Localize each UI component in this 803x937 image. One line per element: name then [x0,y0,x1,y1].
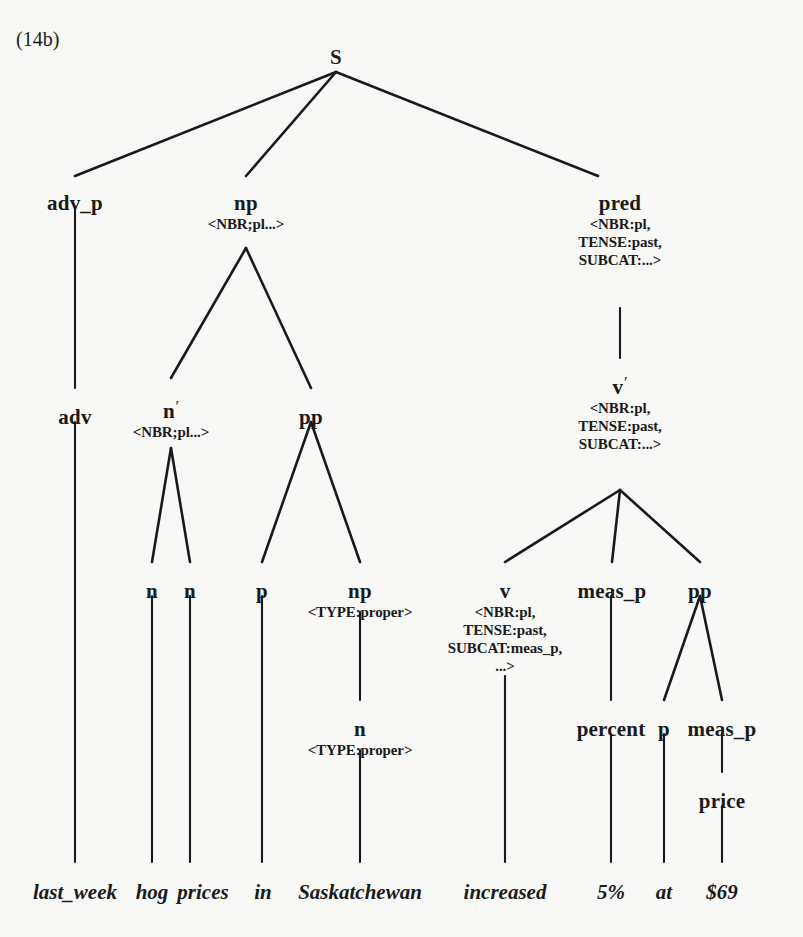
tree-node-adv: adv [58,406,91,429]
tree-edge [505,490,620,562]
node-label: adv_p [47,192,103,215]
node-label: pp [688,580,712,603]
tree-node-s: S [330,46,342,69]
feature-line: TENSE:past, [578,417,662,435]
tree-edge [152,448,171,562]
tree-node-n2: n [184,580,196,603]
node-label: v [448,580,562,603]
feature-line: <NBR;pl...> [208,215,284,233]
node-label: pred [578,192,662,215]
feature-line: TENSE:past, [578,233,662,251]
tree-node-np2: np<TYPE:proper> [308,580,413,621]
node-label: meas_p [578,580,647,603]
node-label: price [699,790,745,813]
tree-node-n3: n<TYPE:proper> [308,718,413,759]
terminal-word-fivepct: 5% [597,880,625,905]
tree-node-pp1: pp [299,406,323,429]
feature-line: <TYPE:proper> [308,603,413,621]
tree-edge [246,72,336,176]
node-feature-structure: <NBR;pl...> [133,423,209,441]
node-feature-structure: <NBR:pl,TENSE:past,SUBCAT:...> [578,399,662,453]
node-label: n [308,718,413,741]
feature-line: SUBCAT:...> [578,251,662,269]
node-label: n [146,580,158,603]
tree-node-p1: p [256,580,268,603]
terminal-word-in: in [254,880,272,905]
node-feature-structure: <NBR:pl,TENSE:past,SUBCAT:...> [578,215,662,269]
terminal-word-hog: hog [136,880,169,905]
tree-node-meas_p1: meas_p [578,580,647,603]
node-label: n [184,580,196,603]
terminal-word-at: at [656,880,672,905]
tree-node-pred: pred<NBR:pl,TENSE:past,SUBCAT:...> [578,192,662,269]
tree-node-n1: n [146,580,158,603]
node-feature-structure: <NBR:pl,TENSE:past,SUBCAT:meas_p,...> [448,603,562,675]
feature-line: SUBCAT:meas_p, [448,639,562,657]
node-label: S [330,46,342,69]
node-label: n′ [133,398,209,423]
tree-edge [664,596,700,700]
tree-node-price: price [699,790,745,813]
tree-node-nbar: n′<NBR;pl...> [133,398,209,441]
feature-line: <NBR:pl, [578,399,662,417]
terminal-word-vword: increased [464,880,547,905]
parse-tree-figure: (14b) Sadv_pnp<NBR;pl...>pred<NBR:pl,TEN… [0,0,803,937]
terminal-word-sask: Saskatchewan [298,880,422,905]
node-label: adv [58,406,91,429]
tree-edge [336,72,598,176]
tree-node-pp2: pp [688,580,712,603]
tree-node-meas_p2: meas_p [688,718,757,741]
feature-line: TENSE:past, [448,621,562,639]
tree-edge [246,248,311,388]
tree-node-np1: np<NBR;pl...> [208,192,284,233]
feature-line: SUBCAT:...> [578,435,662,453]
tree-edge [171,448,190,562]
tree-node-vbar: v′<NBR:pl,TENSE:past,SUBCAT:...> [578,374,662,453]
node-label: p [256,580,268,603]
node-label: np [308,580,413,603]
node-label: np [208,192,284,215]
example-label: (14b) [16,28,59,51]
tree-edge [612,490,620,562]
node-label: pp [299,406,323,429]
terminal-word-dollar69: $69 [706,880,738,905]
node-feature-structure: <TYPE:proper> [308,603,413,621]
tree-edge [262,422,311,562]
tree-node-adv_p: adv_p [47,192,103,215]
feature-line: <NBR:pl, [578,215,662,233]
feature-line: <NBR:pl, [448,603,562,621]
node-label: p [658,718,670,741]
node-label: v′ [578,374,662,399]
tree-edge [311,422,360,562]
tree-node-p2: p [658,718,670,741]
node-label: meas_p [688,718,757,741]
tree-edge [171,248,246,378]
feature-line: ...> [448,657,562,675]
feature-line: <NBR;pl...> [133,423,209,441]
node-label: percent [577,718,646,741]
feature-line: <TYPE:proper> [308,741,413,759]
tree-node-percent: percent [577,718,646,741]
tree-edge [75,72,336,176]
terminal-word-prices: prices [177,880,228,905]
terminal-word-lastweek: last_week [33,880,117,905]
tree-edge [700,596,722,700]
tree-node-v: v<NBR:pl,TENSE:past,SUBCAT:meas_p,...> [448,580,562,675]
node-feature-structure: <TYPE:proper> [308,741,413,759]
tree-edge [620,490,700,562]
node-feature-structure: <NBR;pl...> [208,215,284,233]
tree-edges-layer [0,0,803,937]
